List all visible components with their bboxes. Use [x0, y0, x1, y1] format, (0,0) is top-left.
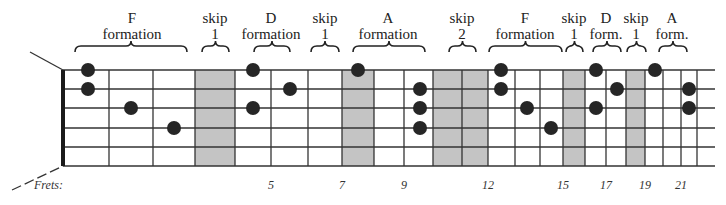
formation-label: skip1: [202, 10, 227, 42]
brace: [254, 41, 290, 52]
formation-label-line2: 2: [449, 26, 474, 42]
skipped-fret-shade: [626, 70, 645, 166]
finger-dot: [682, 82, 696, 96]
brace: [627, 41, 646, 52]
finger-dot: [520, 101, 534, 115]
brace: [566, 41, 583, 52]
formation-label-line1: skip: [202, 10, 227, 26]
finger-dot: [544, 121, 558, 135]
formation-label: skip1: [623, 10, 648, 42]
finger-dot: [167, 121, 181, 135]
formation-label-line2: formation: [102, 26, 161, 42]
brace: [659, 41, 687, 52]
fret-number: 7: [339, 178, 345, 193]
formation-label: Fformation: [102, 10, 161, 42]
finger-dot: [351, 63, 365, 77]
formation-label-line2: 1: [202, 26, 227, 42]
formation-label-line1: skip: [449, 10, 474, 26]
formation-label-line2: form.: [656, 26, 689, 42]
formation-label-line1: D: [241, 10, 300, 26]
finger-dot: [494, 63, 508, 77]
finger-dot: [246, 101, 260, 115]
formation-label: skip1: [561, 10, 586, 42]
finger-dot: [589, 63, 603, 77]
finger-dot: [124, 101, 138, 115]
formation-label-line1: D: [590, 10, 623, 26]
fret-number: 21: [675, 178, 687, 193]
brace: [202, 41, 229, 52]
skipped-fret-shade: [462, 70, 488, 166]
fret-number: 15: [557, 178, 569, 193]
finger-dot: [413, 82, 427, 96]
formation-label: skip2: [449, 10, 474, 42]
frets-label: Frets:: [34, 178, 63, 193]
brace: [311, 41, 339, 52]
brace: [489, 41, 562, 52]
formation-label-line2: 1: [312, 26, 337, 42]
formation-label: Aform.: [656, 10, 689, 42]
formation-label-line2: form.: [590, 26, 623, 42]
brace: [353, 41, 425, 52]
skipped-fret-shade: [342, 70, 374, 166]
skipped-fret-shade: [563, 70, 585, 166]
brace: [593, 41, 621, 52]
finger-dot: [648, 63, 662, 77]
finger-dot: [283, 82, 297, 96]
fret-number: 12: [482, 178, 494, 193]
formation-label: Aformation: [358, 10, 417, 42]
headstock-line: [30, 52, 63, 70]
formation-label-line1: skip: [312, 10, 337, 26]
formation-label-line2: formation: [358, 26, 417, 42]
fret-number: 9: [401, 178, 407, 193]
formation-label-line1: A: [656, 10, 689, 26]
skipped-fret-shade: [195, 70, 235, 166]
formation-label-line2: formation: [495, 26, 554, 42]
formation-label-line1: F: [102, 10, 161, 26]
finger-dot: [246, 63, 260, 77]
fret-number: 17: [600, 178, 612, 193]
formation-label-line1: skip: [623, 10, 648, 26]
finger-dot: [494, 82, 508, 96]
formation-label-line2: 1: [623, 26, 648, 42]
formation-label-line1: F: [495, 10, 554, 26]
nut: [61, 70, 65, 166]
brace: [449, 41, 476, 52]
finger-dot: [81, 82, 95, 96]
finger-dot: [413, 121, 427, 135]
formation-label-line2: formation: [241, 26, 300, 42]
skipped-fret-shade: [433, 70, 462, 166]
fretboard-diagram: Fformationskip1Dformationskip1Aformation…: [0, 0, 726, 205]
finger-dot: [682, 101, 696, 115]
finger-dot: [81, 63, 95, 77]
formation-label: Dformation: [241, 10, 300, 42]
formation-label-line1: A: [358, 10, 417, 26]
fret-number: 5: [268, 178, 274, 193]
formation-label-line2: 1: [561, 26, 586, 42]
brace: [75, 41, 187, 52]
finger-dot: [589, 101, 603, 115]
finger-dot: [610, 82, 624, 96]
fret-number: 19: [639, 178, 651, 193]
formation-label-line1: skip: [561, 10, 586, 26]
formation-label: Dform.: [590, 10, 623, 42]
finger-dot: [413, 101, 427, 115]
formation-label: Fformation: [495, 10, 554, 42]
formation-label: skip1: [312, 10, 337, 42]
